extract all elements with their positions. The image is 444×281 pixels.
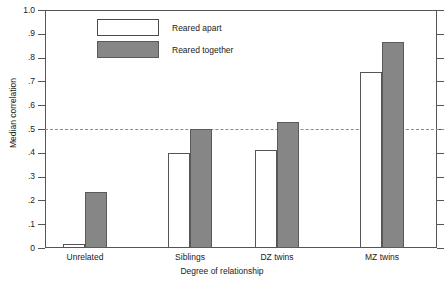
bar-siblings-reared-together <box>190 129 212 248</box>
x-tick-label-mz-twins: MZ twins <box>337 252 427 262</box>
y-tick-mark-right <box>437 105 444 106</box>
bar-dz-twins-reared-apart <box>255 150 277 248</box>
y-tick-label: .9 <box>9 29 35 38</box>
bar-mz-twins-reared-together <box>382 42 404 248</box>
y-tick-mark-right <box>437 34 444 35</box>
y-tick-mark-right <box>437 200 444 201</box>
legend-label-reared-together: Reared together <box>172 45 233 55</box>
y-tick-mark-right <box>437 58 444 59</box>
y-tick-mark <box>38 153 45 154</box>
y-tick-mark <box>38 248 45 249</box>
x-tick-label-siblings: Siblings <box>145 252 235 262</box>
bar-siblings-reared-apart <box>168 153 190 248</box>
y-tick-label: .8 <box>9 53 35 62</box>
bar-dz-twins-reared-together <box>277 122 299 248</box>
y-tick-label: .6 <box>9 101 35 110</box>
legend-swatch-reared-together <box>97 41 159 58</box>
y-tick-label: .1 <box>9 220 35 229</box>
x-tick-label-dz-twins: DZ twins <box>232 252 322 262</box>
y-tick-mark <box>38 105 45 106</box>
y-tick-mark-right <box>437 10 444 11</box>
legend-label-reared-apart: Reared apart <box>172 23 222 33</box>
y-tick-mark-right <box>437 224 444 225</box>
bar-mz-twins-reared-apart <box>360 72 382 248</box>
y-tick-label: .3 <box>9 172 35 181</box>
bar-unrelated-reared-together <box>85 192 107 248</box>
y-tick-label: .5 <box>9 125 35 134</box>
y-tick-label: .7 <box>9 77 35 86</box>
y-tick-mark <box>38 81 45 82</box>
y-tick-mark <box>38 58 45 59</box>
y-tick-mark <box>38 34 45 35</box>
y-tick-mark <box>38 224 45 225</box>
x-tick-label-unrelated: Unrelated <box>40 252 130 262</box>
x-axis-title: Degree of relationship <box>0 266 444 276</box>
y-tick-mark <box>38 200 45 201</box>
legend-swatch-reared-apart <box>97 19 159 36</box>
y-tick-mark-right <box>437 177 444 178</box>
y-tick-mark-right <box>437 248 444 249</box>
bar-unrelated-reared-apart <box>63 244 85 248</box>
y-tick-label: 0 <box>9 244 35 253</box>
y-tick-mark <box>38 177 45 178</box>
y-tick-label: 1.0 <box>9 6 35 15</box>
y-tick-label: .4 <box>9 148 35 157</box>
y-tick-label: .2 <box>9 196 35 205</box>
y-tick-mark <box>38 10 45 11</box>
y-tick-mark-right <box>437 81 444 82</box>
y-tick-mark <box>38 129 45 130</box>
y-tick-mark-right <box>437 153 444 154</box>
chart-figure: Median correlation 0.1.2.3.4.5.6.7.8.91.… <box>0 0 444 281</box>
